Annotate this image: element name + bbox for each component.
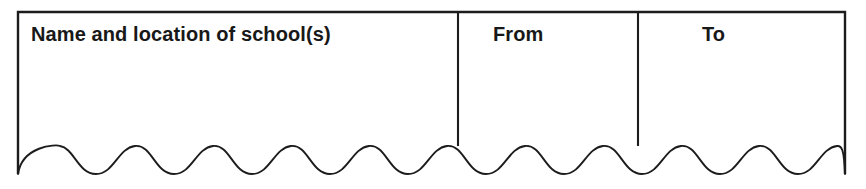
column-header-to: To [702,22,725,46]
scalloped-bottom-edge [18,145,845,174]
column-header-school: Name and location of school(s) [31,22,331,46]
column-header-from: From [493,22,543,46]
form-table-figure: Name and location of school(s) From To [0,0,866,189]
